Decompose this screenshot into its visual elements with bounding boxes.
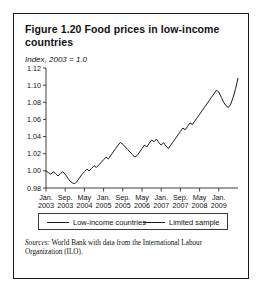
- svg-text:1.04: 1.04: [27, 132, 41, 141]
- legend-item-limited-sample: Limited sample: [143, 214, 219, 231]
- legend-line-icon: [143, 222, 165, 223]
- legend-item-low-income-countries: Low-income countries: [47, 214, 146, 231]
- svg-text:2003: 2003: [57, 201, 73, 210]
- legend-item-label: Low-income countries: [73, 218, 146, 227]
- svg-text:2008: 2008: [192, 201, 208, 210]
- source-note: Sources: World Bank with data from the I…: [25, 239, 233, 258]
- svg-text:2005: 2005: [115, 201, 131, 210]
- svg-text:2005: 2005: [96, 201, 112, 210]
- svg-text:2009: 2009: [211, 201, 227, 210]
- source-text: World Bank with data from the Internatio…: [25, 239, 202, 256]
- source-label: Sources:: [25, 239, 50, 247]
- svg-text:1.10: 1.10: [27, 81, 41, 90]
- svg-text:2006: 2006: [134, 201, 150, 210]
- svg-text:1.06: 1.06: [27, 115, 41, 124]
- svg-text:1.08: 1.08: [27, 98, 41, 107]
- svg-text:2004: 2004: [76, 201, 92, 210]
- svg-text:0.98: 0.98: [27, 184, 41, 193]
- legend-item-label: Limited sample: [169, 218, 219, 227]
- svg-text:2003: 2003: [38, 201, 54, 210]
- svg-text:1.00: 1.00: [27, 166, 41, 175]
- svg-text:2007: 2007: [153, 201, 169, 210]
- svg-text:1.02: 1.02: [27, 149, 41, 158]
- svg-text:2007: 2007: [172, 201, 188, 210]
- svg-text:1.12: 1.12: [27, 64, 41, 73]
- legend-line-icon: [47, 222, 69, 223]
- chart-legend: Low-income countries Limited sample: [38, 213, 228, 230]
- figure-frame: Figure 1.20 Food prices in low-income co…: [13, 13, 249, 279]
